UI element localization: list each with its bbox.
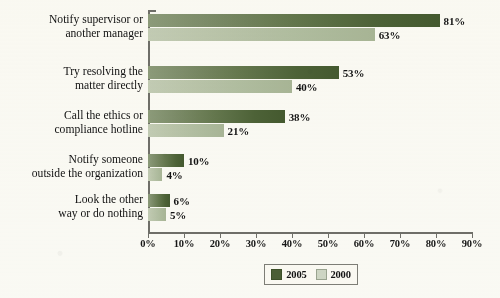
bar-value-label: 81%: [444, 15, 465, 27]
category-label-line: outside the organization: [32, 167, 143, 181]
bar-2005: [148, 194, 170, 207]
bar-2000: [148, 124, 224, 137]
bar-2000: [148, 28, 375, 41]
bar-2005: [148, 110, 285, 123]
legend-item-2000: 2000: [316, 269, 351, 280]
category-label: Notify someoneoutside the organization: [32, 153, 143, 180]
x-axis-tick-label: 90%: [462, 238, 482, 249]
x-axis-tick-label: 60%: [354, 238, 374, 249]
category-label-line: Look the other: [58, 193, 143, 207]
bar-2000: [148, 168, 162, 181]
x-axis-tick-label: 40%: [282, 238, 302, 249]
category-label: Notify supervisor oranother manager: [49, 13, 143, 40]
x-axis-line: [148, 232, 473, 234]
bar-2005: [148, 66, 339, 79]
bar-value-label: 6%: [174, 195, 190, 207]
bar-value-label: 10%: [188, 155, 209, 167]
category-label-line: Try resolving the: [64, 65, 143, 79]
legend-item-2005: 2005: [271, 269, 306, 280]
bar-value-label: 38%: [289, 111, 310, 123]
x-axis-tick-label: 20%: [210, 238, 230, 249]
legend-swatch-2000-icon: [316, 269, 327, 280]
legend-swatch-2005-icon: [271, 269, 282, 280]
category-label-line: Call the ethics or: [54, 109, 143, 123]
bar-value-label: 63%: [379, 29, 400, 41]
category-label-line: Notify supervisor or: [49, 13, 143, 27]
bar-2005: [148, 154, 184, 167]
x-axis-tick-label: 70%: [390, 238, 410, 249]
category-label-line: way or do nothing: [58, 207, 143, 221]
category-label-line: Notify someone: [32, 153, 143, 167]
x-axis-tick-label: 30%: [246, 238, 266, 249]
legend-label-2005: 2005: [286, 269, 306, 280]
bar-value-label: 53%: [343, 67, 364, 79]
horizontal-bar-chart: Notify supervisor oranother managerTry r…: [0, 0, 500, 298]
bar-value-label: 5%: [170, 209, 186, 221]
bar-value-label: 4%: [166, 169, 182, 181]
x-axis-tick-label: 80%: [426, 238, 446, 249]
legend-label-2000: 2000: [331, 269, 351, 280]
bar-2005: [148, 14, 440, 27]
x-axis-tick-label: 10%: [174, 238, 194, 249]
category-label: Try resolving thematter directly: [64, 65, 143, 92]
category-label-line: matter directly: [64, 79, 143, 93]
category-label: Call the ethics orcompliance hotline: [54, 109, 143, 136]
bar-2000: [148, 80, 292, 93]
category-label-line: compliance hotline: [54, 123, 143, 137]
x-axis-tick-label: 50%: [318, 238, 338, 249]
x-axis-tick-label: 0%: [140, 238, 155, 249]
bar-value-label: 40%: [296, 81, 317, 93]
bar-2000: [148, 208, 166, 221]
category-label-line: another manager: [49, 27, 143, 41]
bar-value-label: 21%: [228, 125, 249, 137]
chart-legend: 2005 2000: [264, 264, 358, 285]
category-label: Look the otherway or do nothing: [58, 193, 143, 220]
